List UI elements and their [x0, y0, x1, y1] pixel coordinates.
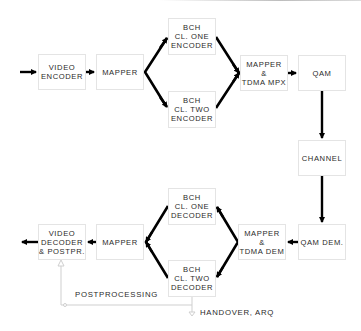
channel-label: CHANNEL: [302, 154, 343, 163]
video-decoder-block: VIDEO DECODER & POSTPR.: [38, 224, 86, 260]
rx-mapper-label: MAPPER: [102, 238, 138, 247]
bch-class-one-decoder-block: BCH CL. ONE DECODER: [168, 188, 216, 225]
bch-class-one-encoder-label: BCH CL. ONE ENCODER: [171, 23, 213, 50]
video-encoder-label: VIDEO ENCODER: [41, 63, 83, 81]
video-encoder-block: VIDEO ENCODER: [38, 54, 86, 90]
bch-class-two-encoder-label: BCH CL. TWO ENCODER: [171, 96, 213, 123]
qam-demodulator-block: QAM DEM.: [298, 224, 346, 260]
qam-demodulator-label: QAM DEM.: [300, 238, 343, 247]
communication-system-diagram: VIDEO ENCODER MAPPER BCH CL. ONE ENCODER…: [0, 0, 361, 331]
mapper-tdma-mpx-block: MAPPER & TDMA MPX: [240, 55, 288, 91]
tx-mapper-label: MAPPER: [102, 68, 138, 77]
bch-class-two-decoder-block: BCH CL. TWO DECODER: [168, 260, 216, 297]
video-decoder-label: VIDEO DECODER & POSTPR.: [39, 229, 85, 256]
rx-mapper-block: MAPPER: [96, 224, 144, 260]
mapper-tdma-dem-label: MAPPER & TDMA DEM: [240, 229, 285, 256]
bch-class-one-decoder-label: BCH CL. ONE DECODER: [171, 193, 213, 220]
bch-class-one-encoder-block: BCH CL. ONE ENCODER: [168, 18, 216, 55]
channel-block: CHANNEL: [298, 140, 346, 176]
tx-mapper-block: MAPPER: [96, 54, 144, 90]
qam-block: QAM: [298, 55, 346, 91]
mapper-tdma-dem-block: MAPPER & TDMA DEM: [238, 224, 286, 260]
qam-label: QAM: [312, 69, 331, 78]
handover-arq-label: HANDOVER, ARQ: [200, 308, 274, 317]
postprocessing-label: POSTPROCESSING: [75, 290, 158, 299]
mapper-tdma-mpx-label: MAPPER & TDMA MPX: [242, 60, 286, 87]
bch-class-two-decoder-label: BCH CL. TWO DECODER: [171, 265, 213, 292]
bch-class-two-encoder-block: BCH CL. TWO ENCODER: [168, 91, 216, 128]
